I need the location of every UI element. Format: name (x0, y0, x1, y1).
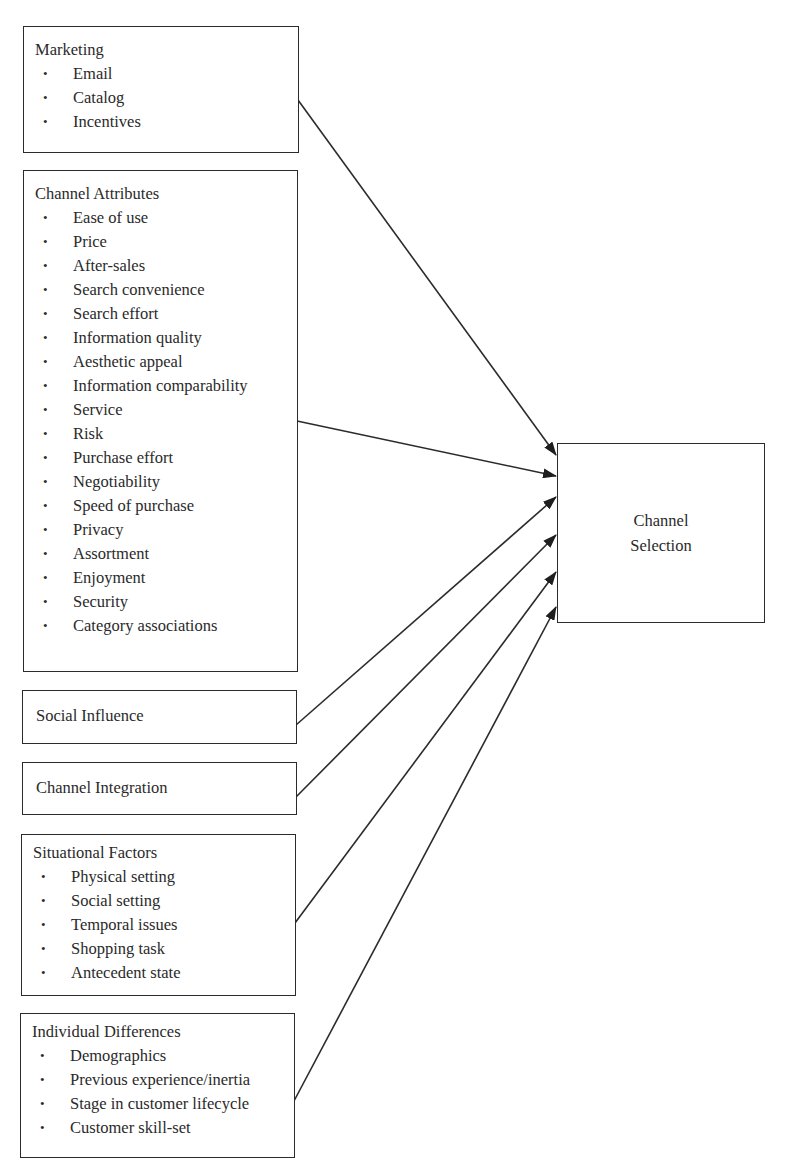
bullet-icon: • (43, 230, 48, 254)
bullet-icon: • (43, 518, 48, 542)
bullet-icon: • (43, 350, 48, 374)
bullet-icon: • (43, 494, 48, 518)
bullet-icon: • (43, 590, 48, 614)
bullet-icon: • (40, 1044, 45, 1068)
bullet-icon: • (43, 110, 48, 134)
channel-attributes-box: Channel Attributes •Ease of use •Price •… (23, 170, 298, 672)
marketing-title: Marketing (35, 38, 104, 62)
bullet-icon: • (43, 278, 48, 302)
arrow-social-influence (296, 497, 556, 725)
bullet-icon: • (43, 614, 48, 638)
arrow-channel-attributes (297, 421, 556, 476)
channel-selection-label-line1: Channel (558, 508, 764, 533)
arrow-marketing (298, 100, 556, 455)
bullet-icon: • (43, 566, 48, 590)
bullet-icon: • (41, 937, 46, 961)
bullet-icon: • (43, 470, 48, 494)
bullet-icon: • (41, 889, 46, 913)
channel-integration-box: Channel Integration (22, 762, 297, 815)
bullet-icon: • (43, 542, 48, 566)
bullet-icon: • (43, 398, 48, 422)
individual-differences-title: Individual Differences (32, 1020, 181, 1044)
situational-factors-box: Situational Factors •Physical setting •S… (21, 834, 296, 996)
bullet-icon: • (43, 326, 48, 350)
social-influence-box: Social Influence (22, 690, 297, 744)
situational-factors-title: Situational Factors (33, 841, 157, 865)
social-influence-title: Social Influence (36, 706, 144, 726)
bullet-icon: • (43, 62, 48, 86)
bullet-icon: • (43, 374, 48, 398)
arrow-individual-differences (294, 607, 556, 1101)
bullet-icon: • (43, 254, 48, 278)
marketing-box: Marketing •Email •Catalog •Incentives (23, 26, 299, 153)
bullet-icon: • (41, 865, 46, 889)
channel-selection-label-line2: Selection (558, 533, 764, 558)
bullet-icon: • (43, 206, 48, 230)
bullet-icon: • (40, 1116, 45, 1140)
bullet-icon: • (41, 913, 46, 937)
bullet-icon: • (43, 446, 48, 470)
individual-differences-box: Individual Differences •Demographics •Pr… (20, 1013, 295, 1158)
bullet-icon: • (40, 1092, 45, 1116)
channel-selection-box: Channel Selection (557, 443, 765, 623)
channel-integration-title: Channel Integration (36, 778, 168, 798)
bullet-icon: • (40, 1068, 45, 1092)
bullet-icon: • (43, 302, 48, 326)
arrow-situational-factors (295, 572, 556, 923)
bullet-icon: • (43, 422, 48, 446)
bullet-icon: • (43, 86, 48, 110)
arrow-channel-integration (296, 535, 556, 797)
bullet-icon: • (41, 961, 46, 985)
channel-attributes-title: Channel Attributes (35, 182, 159, 206)
